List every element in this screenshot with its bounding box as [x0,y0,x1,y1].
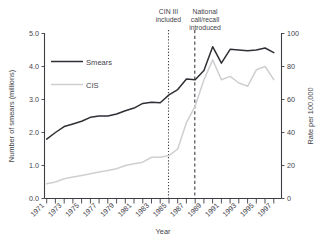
chart-legend: Smears CIS [51,58,112,90]
left-tick-1: 1.0 [29,161,39,170]
x-tick-1983: 1983 [133,201,151,219]
x-tick-1979: 1979 [98,201,116,219]
left-axis-tick-labels: 0.0 1.0 2.0 3.0 4.0 5.0 [29,29,39,203]
right-tick-3: 60 [287,95,295,104]
right-tick-4: 80 [287,62,295,71]
x-tick-1995: 1995 [238,201,256,219]
x-tick-1973: 1973 [46,201,64,219]
left-axis-title: Number of smears (millions) [7,70,16,162]
cin3-annotation: CIN III included [156,8,182,23]
chart-figure: 0.0 1.0 2.0 3.0 4.0 5.0 0 20 40 60 80 10… [0,0,327,243]
call-recall-annotation-line2: call/recall [191,16,220,23]
bottom-axis-title: Year [156,227,171,236]
right-tick-2: 40 [287,128,295,137]
x-tick-1977: 1977 [81,201,99,219]
right-tick-5: 100 [287,29,299,38]
left-tick-0: 0.0 [29,194,39,203]
x-tick-1991: 1991 [203,201,221,219]
left-tick-5: 5.0 [29,29,39,38]
right-tick-0: 0 [287,194,291,203]
x-tick-1971: 1971 [28,201,46,219]
series-line-smears [47,47,274,139]
call-recall-annotation-line3: introduced [189,24,221,31]
cin3-annotation-line2: included [156,16,182,23]
chart-canvas: 0.0 1.0 2.0 3.0 4.0 5.0 0 20 40 60 80 10… [0,0,327,243]
x-tick-1993: 1993 [221,201,239,219]
cin3-annotation-line1: CIN III [159,8,178,15]
x-tick-1985: 1985 [151,201,169,219]
right-tick-1: 20 [287,161,295,170]
right-axis-tick-labels: 0 20 40 60 80 100 [287,29,299,203]
x-tick-1997: 1997 [256,201,274,219]
left-tick-3: 3.0 [29,95,39,104]
x-tick-1981: 1981 [116,201,134,219]
right-axis-title: Rate per 100,000 [306,87,315,144]
call-recall-annotation: National call/recall introduced [189,8,221,31]
left-tick-4: 4.0 [29,62,39,71]
left-tick-2: 2.0 [29,128,39,137]
legend-label-cis: CIS [86,81,99,90]
call-recall-annotation-line1: National [193,8,218,15]
x-tick-1989: 1989 [186,201,204,219]
x-tick-1987: 1987 [168,201,186,219]
x-tick-1975: 1975 [63,201,81,219]
bottom-axis-tick-labels: 1971 1973 1975 1977 1979 1981 1983 1985 … [28,201,273,219]
legend-label-smears: Smears [86,58,112,67]
